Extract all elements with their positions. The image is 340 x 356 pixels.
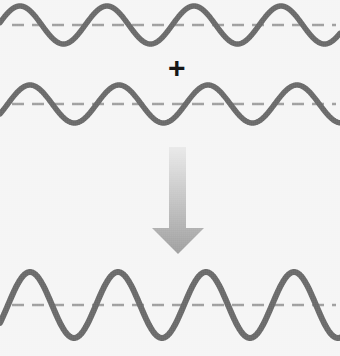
wave-one-curve: [0, 6, 340, 44]
wave-sum-curve: [0, 272, 340, 338]
interference-figure: +: [0, 0, 340, 356]
down-arrow-icon: [152, 147, 204, 254]
plus-operator-symbol: +: [168, 53, 186, 83]
wave-two-curve: [0, 85, 340, 123]
